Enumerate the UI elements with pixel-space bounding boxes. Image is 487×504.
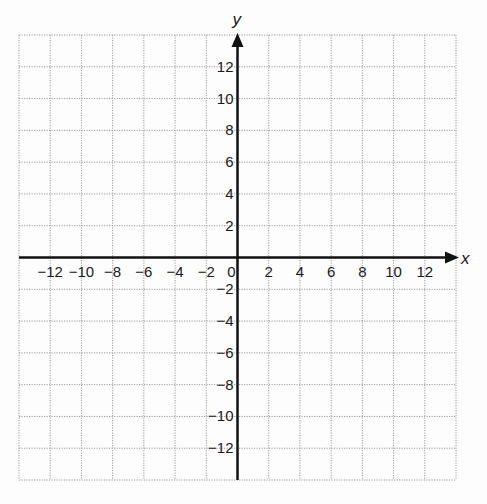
y-tick-label: −6 <box>216 344 233 361</box>
axes: x y <box>19 10 470 480</box>
y-tick-label: 8 <box>225 121 233 138</box>
x-tick-label: 2 <box>265 263 273 280</box>
coordinate-plane: x y −12−10−8−6−4−2024681012 −12−10−8−6−4… <box>0 0 487 504</box>
x-tick-label: 4 <box>296 263 304 280</box>
y-axis-label: y <box>232 10 243 29</box>
y-tick-label: 2 <box>225 217 233 234</box>
x-tick-labels: −12−10−8−6−4−2024681012 <box>37 263 433 280</box>
x-tick-label: 0 <box>227 263 235 280</box>
x-tick-label: −2 <box>198 263 215 280</box>
x-tick-label: −12 <box>37 263 62 280</box>
y-tick-label: 10 <box>217 90 234 107</box>
y-tick-label: −10 <box>208 407 233 424</box>
x-tick-label: −10 <box>69 263 94 280</box>
x-tick-label: 10 <box>385 263 402 280</box>
x-axis-arrow-icon <box>445 252 459 264</box>
y-tick-label: −12 <box>208 439 233 456</box>
y-tick-label: 12 <box>217 58 234 75</box>
x-tick-label: 6 <box>327 263 335 280</box>
y-tick-label: −2 <box>216 280 233 297</box>
x-tick-label: 12 <box>416 263 433 280</box>
y-tick-label: −4 <box>216 312 233 329</box>
x-axis-label: x <box>460 249 470 268</box>
x-tick-label: −8 <box>104 263 121 280</box>
y-tick-label: 6 <box>225 153 233 170</box>
x-tick-label: 8 <box>358 263 366 280</box>
x-tick-label: −6 <box>135 263 152 280</box>
y-tick-label: 4 <box>225 185 233 202</box>
y-tick-label: −8 <box>216 376 233 393</box>
x-tick-label: −4 <box>167 263 184 280</box>
